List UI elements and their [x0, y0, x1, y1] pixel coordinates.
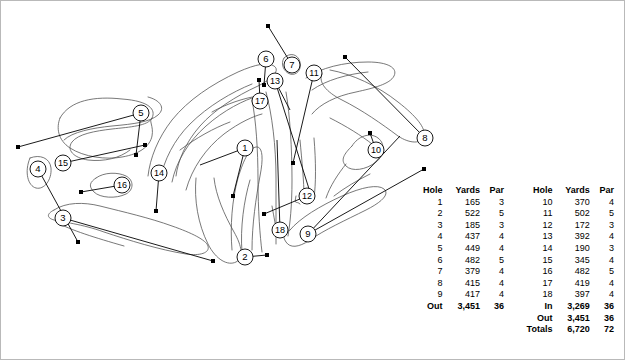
hole-marker-6[interactable]: 6 — [258, 51, 274, 67]
cell-spacer — [504, 208, 524, 220]
hole-number-label: 6 — [263, 53, 268, 64]
hole-marker-11[interactable]: 11 — [306, 65, 322, 81]
cell-hole-back: 12 — [524, 220, 553, 232]
cell-hole-front: 2 — [414, 208, 443, 220]
hole-marker-13[interactable]: 13 — [267, 73, 283, 89]
cell-yards-back: 502 — [552, 208, 589, 220]
hole-marker-17[interactable]: 17 — [252, 93, 268, 109]
cell-par-front: 5 — [480, 255, 504, 267]
cell-yards-front: 522 — [443, 208, 480, 220]
cell-par-back: 5 — [590, 208, 614, 220]
table-row-total: Out3,45136 — [414, 313, 614, 325]
hole-marker-7[interactable]: 7 — [284, 57, 300, 73]
cell-yards-front-total — [443, 313, 480, 325]
cell-yards-back: 482 — [552, 266, 589, 278]
table-row: 84154174194 — [414, 278, 614, 290]
hole-number-label: 14 — [154, 168, 164, 178]
table-row: 73794164825 — [414, 266, 614, 278]
scorecard-header-row: Hole Yards Par Hole Yards Par — [414, 185, 614, 197]
hole-marker-2[interactable]: 2 — [237, 249, 253, 265]
cell-par-back: 5 — [590, 266, 614, 278]
table-row-total: Totals6,72072 — [414, 324, 614, 336]
table-row: 25225115025 — [414, 208, 614, 220]
header-hole-back: Hole — [524, 185, 553, 197]
cell-par-back: 4 — [590, 255, 614, 267]
cell-par-back: 3 — [590, 243, 614, 255]
cell-yards-back: 172 — [552, 220, 589, 232]
hole-marker-12[interactable]: 12 — [299, 188, 315, 204]
hole-marker-3[interactable]: 3 — [55, 210, 71, 226]
tee-marker — [211, 259, 215, 263]
cell-hole-front: 1 — [414, 197, 443, 209]
hole-number-label: 15 — [58, 158, 68, 168]
tee-marker — [266, 24, 270, 28]
tee-marker — [79, 190, 83, 194]
cell-spacer — [504, 266, 524, 278]
scorecard-table: Hole Yards Par Hole Yards Par 1165310370… — [414, 185, 614, 336]
table-row: 64825153454 — [414, 255, 614, 267]
hole-number-label: 8 — [422, 132, 427, 143]
hole-marker-1[interactable]: 1 — [237, 140, 253, 156]
tee-marker — [343, 55, 347, 59]
hole-marker-8[interactable]: 8 — [417, 130, 433, 146]
tee-marker — [368, 131, 372, 135]
cell-hole-back: 15 — [524, 255, 553, 267]
hole-number-label: 4 — [35, 163, 40, 174]
tee-marker — [154, 209, 158, 213]
hole-marker-10[interactable]: 10 — [368, 142, 384, 158]
table-row-total: Out3,45136In3,26936 — [414, 301, 614, 313]
hole-marker-18[interactable]: 18 — [272, 222, 288, 238]
cell-par-back-total: 36 — [590, 313, 614, 325]
cell-spacer — [504, 324, 524, 336]
cell-hole-front-total: Out — [414, 301, 443, 313]
cell-hole-back-total: In — [524, 301, 553, 313]
hole-marker-4[interactable]: 4 — [30, 161, 46, 177]
hole-number-label: 7 — [289, 59, 294, 70]
cell-hole-back: 17 — [524, 278, 553, 290]
header-spacer — [504, 185, 524, 197]
scorecard-body: 1165310370425225115025318531217234437413… — [414, 197, 614, 336]
cell-yards-front: 415 — [443, 278, 480, 290]
cell-hole-back: 11 — [524, 208, 553, 220]
tee-marker — [76, 240, 80, 244]
tee-marker — [265, 253, 269, 257]
hole-number-label: 16 — [117, 180, 127, 190]
cell-hole-front: 9 — [414, 289, 443, 301]
cell-par-front: 4 — [480, 289, 504, 301]
cell-hole-back: 14 — [524, 243, 553, 255]
cell-yards-front: 165 — [443, 197, 480, 209]
table-row: 31853121723 — [414, 220, 614, 232]
cell-spacer — [504, 301, 524, 313]
cell-yards-front: 437 — [443, 231, 480, 243]
tee-markers — [16, 24, 426, 263]
cell-yards-front: 449 — [443, 243, 480, 255]
hole-marker-14[interactable]: 14 — [151, 165, 167, 181]
hole-marker-5[interactable]: 5 — [133, 105, 149, 121]
scorecard: Hole Yards Par Hole Yards Par 1165310370… — [414, 185, 614, 336]
tee-marker — [143, 143, 147, 147]
cell-yards-front: 482 — [443, 255, 480, 267]
tee-marker — [262, 212, 266, 216]
cell-yards-front-total: 3,451 — [443, 301, 480, 313]
cell-hole-back: 16 — [524, 266, 553, 278]
hole-marker-16[interactable]: 16 — [114, 177, 130, 193]
cell-yards-back: 392 — [552, 231, 589, 243]
tee-marker — [291, 161, 295, 165]
header-par-back: Par — [590, 185, 614, 197]
cell-yards-back: 190 — [552, 243, 589, 255]
hole-marker-15[interactable]: 15 — [55, 155, 71, 171]
cell-hole-front-total — [414, 313, 443, 325]
cell-par-front-total — [480, 313, 504, 325]
cell-par-back: 4 — [590, 278, 614, 290]
hole-marker-9[interactable]: 9 — [300, 226, 316, 242]
cell-yards-back-total: 6,720 — [552, 324, 589, 336]
hole-number-label: 12 — [302, 191, 312, 201]
cell-spacer — [504, 289, 524, 301]
cell-par-back-total: 36 — [590, 301, 614, 313]
cell-par-front: 4 — [480, 231, 504, 243]
table-row: 44374133924 — [414, 231, 614, 243]
hole-number-label: 17 — [255, 96, 265, 106]
hole-number-label: 11 — [309, 68, 318, 78]
cell-yards-back: 397 — [552, 289, 589, 301]
hole-number-label: 13 — [270, 76, 280, 86]
